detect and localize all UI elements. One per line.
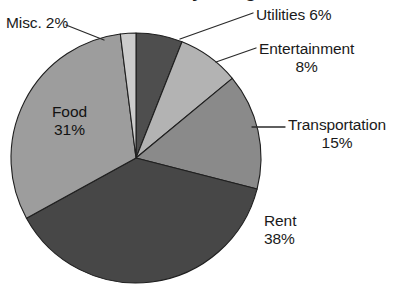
leader-line-utilities [180, 13, 253, 39]
slice-label-transportation-name: Transportation [288, 116, 386, 133]
leader-line-misc [66, 25, 104, 40]
slice-label-transportation: Transportation 15% [288, 116, 386, 153]
slice-label-rent-name: Rent [264, 212, 296, 229]
slice-label-utilities: Utilities 6% [256, 6, 331, 24]
slice-label-food: Food 31% [52, 103, 87, 140]
slice-label-misc-text: Misc. 2% [6, 14, 68, 31]
slice-label-rent: Rent 38% [264, 212, 296, 249]
slice-label-food-value: 31% [52, 121, 87, 139]
slice-label-transportation-value: 15% [288, 134, 386, 152]
pie-slices-group [11, 33, 261, 283]
slice-label-misc: Misc. 2% [6, 14, 68, 32]
slice-label-utilities-text: Utilities 6% [256, 6, 331, 23]
slice-label-rent-value: 38% [264, 230, 296, 248]
slice-label-entertainment-name: Entertainment [259, 40, 354, 57]
slice-label-food-name: Food [52, 103, 87, 120]
pie-chart: Monthly Budget Misc. 2% Utilities 6% Ent… [0, 0, 403, 297]
slice-label-entertainment-value: 8% [259, 58, 354, 76]
slice-label-entertainment: Entertainment 8% [259, 40, 354, 77]
leader-line-entertainment [216, 48, 256, 62]
